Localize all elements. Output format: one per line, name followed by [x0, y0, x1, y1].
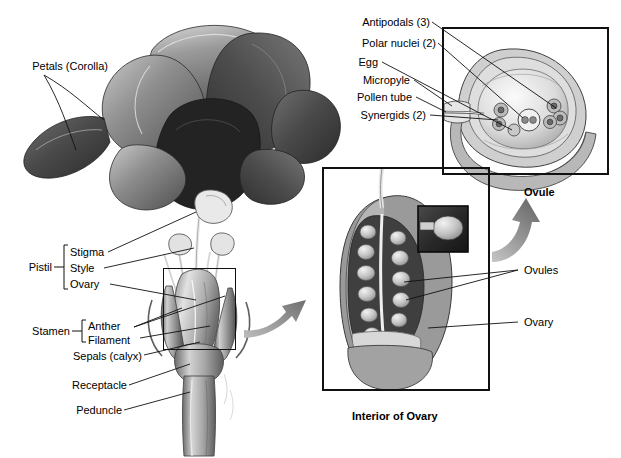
diagram-canvas: Petals (Corolla) Pistil Stigma Style Ova…: [0, 0, 621, 458]
label-stamen: Stamen: [0, 325, 70, 337]
caption-interior-of-ovary: Interior of Ovary: [352, 410, 438, 422]
arrow-to-ovule-inset: [492, 198, 540, 262]
arrow-to-ovary-inset: [244, 300, 306, 338]
label-filament: Filament: [88, 334, 130, 346]
label-anther: Anther: [88, 320, 120, 332]
label-petals: Petals (Corolla): [0, 60, 108, 72]
flower-ovary-highlight-box: [163, 268, 236, 350]
label-ovules: Ovules: [524, 264, 558, 276]
ovule-inset-frame: [442, 27, 609, 175]
label-pollen-tube: Pollen tube: [300, 91, 412, 103]
label-style: Style: [70, 262, 94, 274]
flower-illustration: [24, 25, 341, 456]
label-sepals: Sepals (calyx): [0, 350, 142, 362]
label-egg: Egg: [300, 56, 378, 68]
label-antipodals: Antipodals (3): [300, 16, 430, 28]
label-ovary: Ovary: [70, 278, 99, 290]
caption-ovule: Ovule: [524, 186, 555, 198]
label-stigma: Stigma: [70, 246, 104, 258]
label-synergids: Synergids (2): [300, 109, 426, 121]
label-polar-nuclei: Polar nuclei (2): [300, 37, 436, 49]
label-receptacle: Receptacle: [0, 379, 127, 391]
label-ovary-inset: Ovary: [524, 316, 553, 328]
ovary-inset-frame: [322, 167, 490, 391]
label-pistil: Pistil: [0, 261, 52, 273]
label-peduncle: Peduncle: [0, 404, 122, 416]
label-micropyle: Micropyle: [300, 74, 410, 86]
